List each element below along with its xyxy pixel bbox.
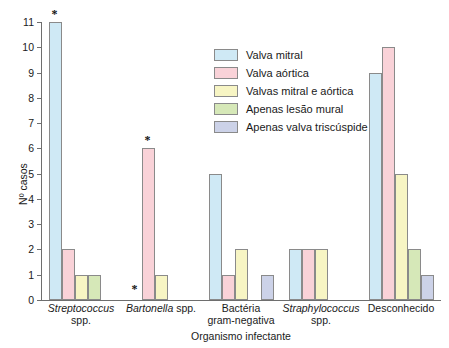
legend-label: Valva mitral (246, 49, 303, 61)
bar (302, 249, 315, 300)
y-tick-label: 7 (10, 118, 34, 128)
bar (88, 275, 101, 300)
x-axis-label-line: spp. (29, 315, 133, 327)
legend-swatch (214, 103, 238, 115)
legend-item: Valvas mitral e aórtica (214, 82, 414, 100)
bar (421, 275, 434, 300)
bar (261, 275, 274, 300)
x-axis-title: Organismo infectante (41, 330, 441, 342)
bar (62, 249, 75, 300)
y-tick-label: 8 (10, 93, 34, 103)
bar (142, 148, 155, 300)
legend-swatch (214, 121, 238, 133)
bar-chart: 01234567891011 Nº casos *** Valva mitral… (0, 0, 449, 348)
legend-item: Valva aórtica (214, 64, 414, 82)
bar (395, 174, 408, 300)
bar-group (129, 22, 194, 300)
bar-group (49, 22, 114, 300)
chart-legend: Valva mitralValva aórticaValvas mitral e… (214, 46, 414, 136)
bar (75, 275, 88, 300)
x-axis-label: Desconhecido (349, 303, 449, 315)
y-axis-title: Nº casos (17, 144, 29, 224)
bar (289, 249, 302, 300)
significance-asterisk: * (52, 8, 58, 20)
legend-item: Apenas lesão mural (214, 100, 414, 118)
legend-swatch (214, 49, 238, 61)
legend-swatch (214, 85, 238, 97)
x-axis-label-line: Desconhecido (349, 303, 449, 315)
significance-asterisk: * (132, 283, 138, 295)
significance-asterisk: * (145, 134, 151, 146)
legend-label: Apenas valva triscúspide (246, 121, 368, 133)
y-tick-label: 9 (10, 68, 34, 78)
x-axis-line (41, 300, 441, 301)
legend-item: Valva mitral (214, 46, 414, 64)
legend-item: Apenas valva triscúspide (214, 118, 414, 136)
bar (235, 249, 248, 300)
legend-label: Valva aórtica (246, 67, 309, 79)
bar (315, 249, 328, 300)
bar (408, 249, 421, 300)
bar (222, 275, 235, 300)
legend-swatch (214, 67, 238, 79)
bar (49, 22, 62, 300)
y-tick-label: 10 (10, 42, 34, 52)
x-axis-label-line: spp. (269, 315, 373, 327)
legend-label: Apenas lesão mural (246, 103, 343, 115)
y-tick-label: 11 (10, 17, 34, 27)
bar (209, 174, 222, 300)
bar (155, 275, 168, 300)
legend-label: Valvas mitral e aórtica (246, 85, 353, 97)
y-tick-label: 1 (10, 270, 34, 280)
y-tick-label: 2 (10, 244, 34, 254)
y-tick-mark (37, 300, 41, 301)
